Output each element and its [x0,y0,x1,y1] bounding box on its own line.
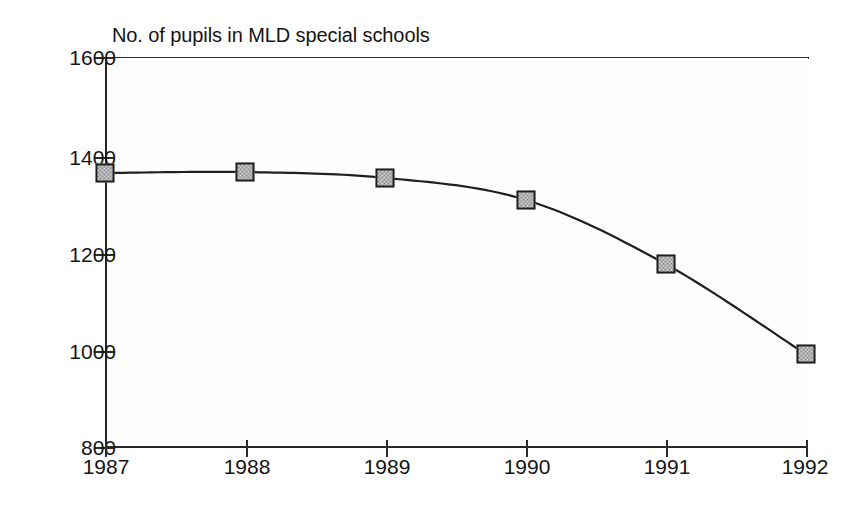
x-axis-label-1992: 1992 [750,455,859,479]
chart-title: No. of pupils in MLD special schools [112,24,430,47]
y-axis-label-1200: 1200 [34,243,120,267]
data-point-marker-1992 [797,345,816,364]
y-axis: 1600 1400 1200 1000 800 [0,0,120,518]
chart-container: No. of pupils in MLD special schools 160… [0,0,859,518]
data-point-marker-1988 [236,163,255,182]
data-point-marker-1991 [656,255,675,274]
data-point-marker-1989 [376,168,395,187]
y-axis-label-1000: 1000 [34,340,120,364]
y-axis-label-1600: 1600 [34,46,120,70]
x-axis-label-1989: 1989 [332,455,442,479]
x-axis-label-1990: 1990 [472,455,582,479]
data-point-marker-1990 [516,190,535,209]
x-axis-label-1988: 1988 [192,455,302,479]
plot-area [105,58,808,448]
data-point-marker-1987 [96,164,115,183]
x-axis-label-1991: 1991 [612,455,722,479]
x-axis-label-1987: 1987 [51,455,161,479]
